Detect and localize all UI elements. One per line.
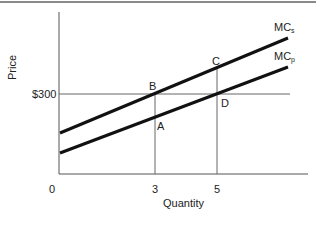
mcs-label-sub: s <box>291 27 295 34</box>
mcp-label-main: MC <box>274 50 291 62</box>
mcp-line <box>60 67 288 153</box>
point-b-label: B <box>149 81 156 92</box>
point-a-label: A <box>157 121 164 132</box>
mcp-label: MCp <box>274 51 295 63</box>
mcs-label: MCs <box>274 22 295 34</box>
mcp-label-sub: p <box>291 56 295 63</box>
point-c-label: C <box>212 56 220 67</box>
x-tick-3: 3 <box>152 184 158 195</box>
x-tick-5: 5 <box>214 184 220 195</box>
mcs-label-main: MC <box>274 21 291 33</box>
x-tick-0: 0 <box>49 184 55 195</box>
point-d-label: D <box>221 98 229 109</box>
x-axis-label: Quantity <box>163 198 204 209</box>
mcs-line <box>60 38 288 133</box>
y-axis-label: Price <box>6 55 18 80</box>
y-tick-300: $300 <box>32 89 56 100</box>
